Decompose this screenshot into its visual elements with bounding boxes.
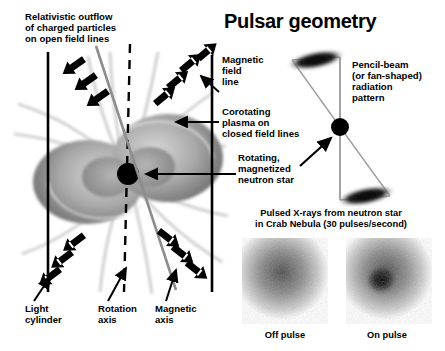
label-corotating-plasma: Corotating plasma on closed field lines [222,106,299,139]
label-on-pulse: On pulse [338,330,436,341]
xray-image-on-pulse [346,238,432,324]
label-xray-caption: Pulsed X-rays from neutron star in Crab … [222,208,440,230]
xray-image-off-pulse [242,238,328,324]
label-magnetic-field-line: Magnetic field line [222,54,264,87]
label-pencil-beam: Pencil-beam (or fan-shaped) radiation pa… [352,59,422,104]
beam-cap-bottom [336,182,396,211]
label-rotation-axis: Rotation axis [98,303,137,325]
beam-star-dot [331,118,349,136]
label-light-cylinder: Light cylinder [25,303,62,325]
pulsar-geometry-figure: Pulsar geometry [0,0,445,351]
label-relativistic-outflow: Relativistic outflow of charged particle… [25,11,116,44]
outflow-arrows-upper-left [58,53,112,112]
outflow-arrows-lower-left [35,229,89,291]
label-magnetic-axis: Magnetic axis [155,303,197,325]
label-rotating-neutron-star: Rotating, magnetized neutron star [238,152,294,185]
label-off-pulse: Off pulse [236,330,334,341]
beam-cap-top [286,46,346,75]
